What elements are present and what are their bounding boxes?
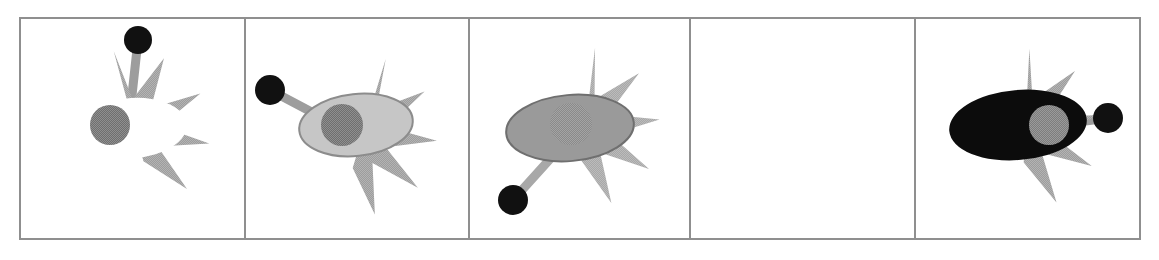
marker-dot [1093,103,1123,133]
pupil-dither-overlay [90,105,130,145]
marker-dot [124,26,152,54]
marker-dot [498,185,528,215]
figure-svg [0,0,1159,260]
pupil-dither-overlay [321,104,363,146]
marker-dot [255,75,285,105]
pupil-dither-overlay [550,103,592,145]
filmstrip-container [0,0,1159,260]
pupil-dither-overlay [1029,105,1069,145]
